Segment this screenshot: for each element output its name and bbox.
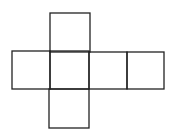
square-right-1 (89, 52, 127, 89)
square-right-2 (127, 52, 164, 89)
square-top (50, 13, 90, 52)
square-left (12, 51, 50, 89)
cube-net-diagram (0, 0, 171, 137)
square-center (50, 51, 89, 89)
square-bottom (49, 89, 89, 128)
